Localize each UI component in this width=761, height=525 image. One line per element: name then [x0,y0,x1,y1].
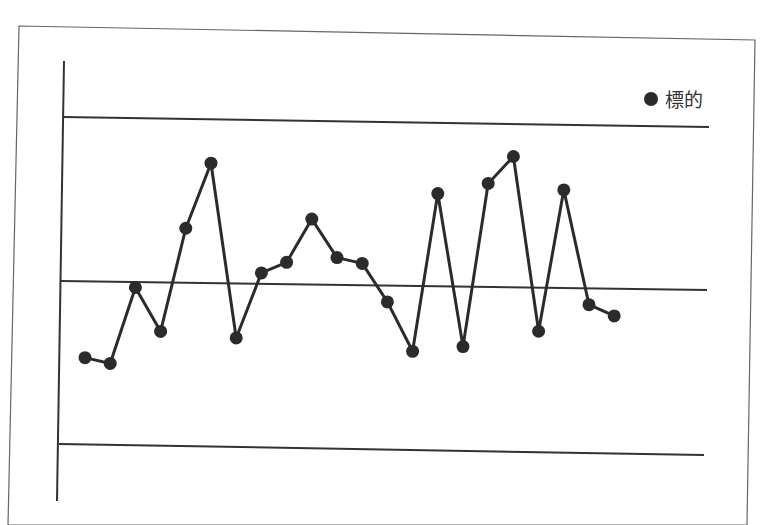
control-chart: 標的 [0,0,761,525]
data-point [154,325,167,338]
data-point [255,266,268,279]
data-point [406,345,419,358]
data-point [356,257,369,270]
data-point [305,213,318,226]
data-point [205,157,218,170]
data-point [79,351,92,364]
data-point [457,340,470,353]
legend-label: 標的 [665,89,703,111]
data-point [608,309,621,322]
legend-marker-icon [644,92,658,106]
lcl-line [59,444,704,455]
data-point [431,187,444,200]
data-point [280,256,293,269]
series-標的 [79,150,621,370]
ucl-line [63,117,709,127]
data-point [532,325,545,338]
data-point [331,251,344,264]
legend: 標的 [644,89,703,111]
data-point [179,222,192,235]
data-point [129,281,142,294]
data-point [381,295,394,308]
data-point [230,331,243,344]
data-point [104,357,117,370]
data-point [482,177,495,190]
data-point [557,183,570,196]
center-line [61,281,707,290]
data-point [583,298,596,311]
data-point [507,150,520,163]
